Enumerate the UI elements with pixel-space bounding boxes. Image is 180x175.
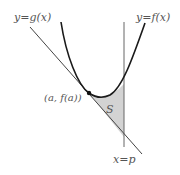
- tangent-point-dot: [87, 91, 91, 95]
- label-tangent-point: (a, f(a)): [44, 93, 82, 103]
- label-vertical-line: x=p: [113, 154, 135, 165]
- label-g-curve: y=g(x): [14, 12, 51, 23]
- curve-f: [61, 22, 145, 97]
- label-region-s: S: [106, 104, 114, 115]
- diagram-svg: [0, 0, 180, 175]
- diagram-canvas: y=g(x) y=f(x) (a, f(a)) S x=p: [0, 0, 180, 175]
- label-f-curve: y=f(x): [136, 12, 170, 23]
